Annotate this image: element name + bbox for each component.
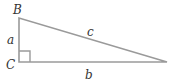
vertex-label-b: B: [12, 3, 22, 17]
right-angle-marker: [19, 51, 30, 62]
right-triangle-diagram: B C a b c: [0, 0, 172, 83]
vertex-label-c: C: [6, 58, 15, 72]
side-label-a: a: [7, 33, 14, 47]
side-label-c: c: [87, 25, 94, 39]
side-label-b: b: [85, 68, 93, 82]
